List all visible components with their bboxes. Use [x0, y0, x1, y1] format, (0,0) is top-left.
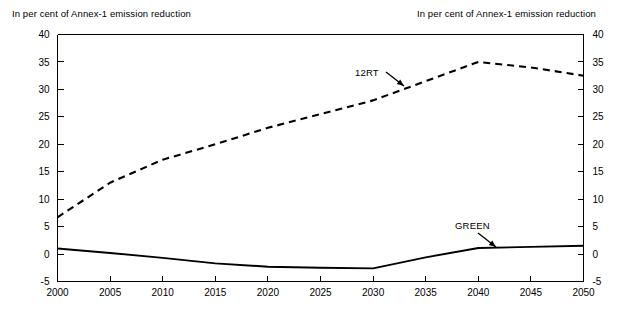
- y-tick-label-right: 10: [593, 194, 605, 205]
- y-tick-label-left: 35: [38, 57, 50, 68]
- x-tick-label: 2010: [152, 287, 175, 298]
- x-tick-label: 2020: [257, 287, 280, 298]
- y-tick-label-right: 15: [593, 166, 605, 177]
- y-tick-label-right: 35: [593, 57, 605, 68]
- y-tick-label-left: 40: [38, 29, 50, 40]
- x-tick-label: 2015: [204, 287, 227, 298]
- tick-label-group: -5-5005510101515202025253030353540402000…: [38, 29, 604, 297]
- chart-plot-area: -5-5005510101515202025253030353540402000…: [0, 0, 640, 317]
- series-label-green: GREEN: [455, 220, 490, 231]
- y-tick-label-left: 5: [44, 221, 50, 232]
- axis-group: [58, 35, 584, 282]
- x-tick-label: 2025: [309, 287, 332, 298]
- y-tick-label-right: 25: [593, 111, 605, 122]
- x-tick-label: 2000: [46, 287, 69, 298]
- x-tick-label: 2005: [99, 287, 122, 298]
- tick-group: [58, 62, 584, 282]
- y-tick-label-left: 25: [38, 111, 50, 122]
- y-tick-label-left: 15: [38, 166, 50, 177]
- y-tick-label-right: 5: [593, 221, 599, 232]
- x-tick-label: 2030: [362, 287, 385, 298]
- y-tick-label-right: 20: [593, 139, 605, 150]
- x-tick-label: 2050: [572, 287, 595, 298]
- series-line-green: [58, 246, 584, 269]
- y-tick-label-right: 0: [593, 249, 599, 260]
- y-tick-label-left: 0: [44, 249, 50, 260]
- y-tick-label-left: -5: [41, 276, 50, 287]
- series-label-12rt: 12RT: [355, 67, 379, 78]
- x-tick-label: 2035: [415, 287, 438, 298]
- y-tick-label-right: 40: [593, 29, 605, 40]
- y-tick-label-left: 30: [38, 84, 50, 95]
- chart-figure: In per cent of Annex-1 emission reductio…: [0, 0, 640, 317]
- y-tick-label-right: -5: [593, 276, 602, 287]
- y-tick-label-left: 20: [38, 139, 50, 150]
- y-tick-label-left: 10: [38, 194, 50, 205]
- y-tick-label-right: 30: [593, 84, 605, 95]
- series-group: [58, 62, 584, 268]
- x-tick-label: 2045: [520, 287, 543, 298]
- series-line-12rt: [58, 62, 584, 217]
- x-tick-label: 2040: [467, 287, 490, 298]
